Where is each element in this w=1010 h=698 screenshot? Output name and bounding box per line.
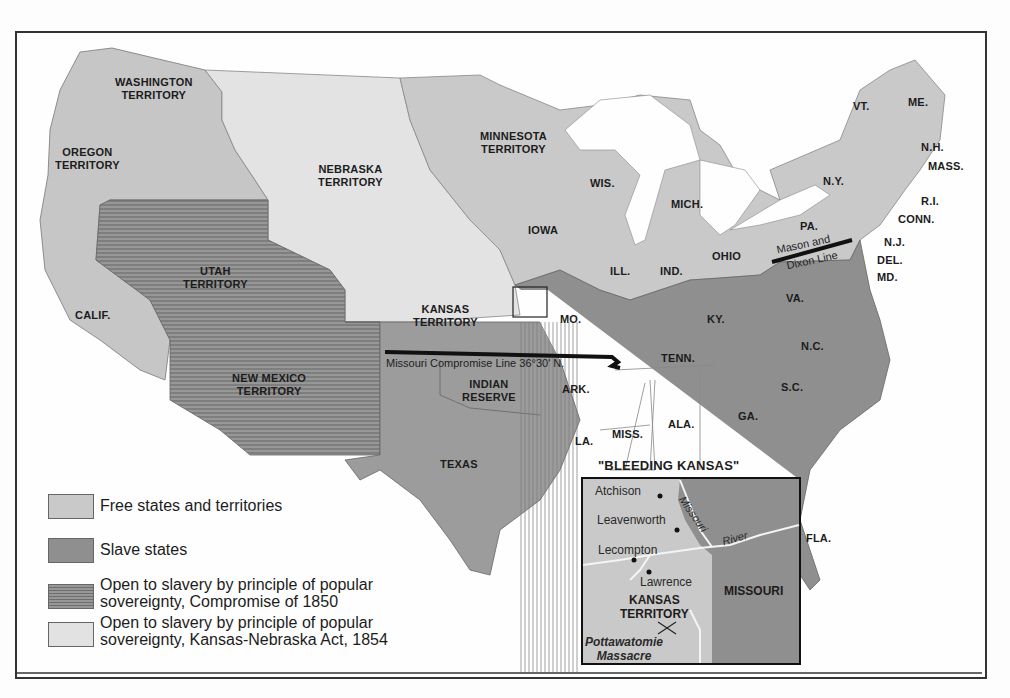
label-oregon-territory: OREGON TERRITORY — [55, 146, 120, 172]
label-nc: N.C. — [801, 340, 824, 353]
label-calif: CALIF. — [75, 309, 110, 322]
legend-swatch-free — [48, 494, 94, 519]
callout-hatch — [520, 322, 580, 672]
lecompton-dot — [632, 558, 637, 563]
label-ky: KY. — [707, 313, 725, 326]
label-la: LA. — [575, 435, 593, 448]
label-minnesota-territory: MINNESOTA TERRITORY — [480, 130, 547, 156]
inset-lecompton: Lecompton — [598, 543, 657, 557]
atchison-dot — [658, 494, 663, 499]
label-texas: TEXAS — [440, 458, 478, 471]
legend-label-slave: Slave states — [100, 538, 187, 558]
label-kansas-territory: KANSAS TERRITORY — [413, 303, 478, 329]
label-ind: IND. — [660, 265, 683, 278]
inset-missouri: MISSOURI — [724, 584, 783, 598]
label-wis: WIS. — [590, 177, 615, 190]
label-ark: ARK. — [562, 383, 590, 396]
label-ala: ALA. — [668, 418, 694, 431]
label-va: VA. — [786, 292, 804, 305]
label-ny: N.Y. — [823, 175, 844, 188]
legend-label-free: Free states and territories — [100, 494, 282, 514]
legend-item-kansas-nebraska: Open to slavery by principle of popular … — [48, 614, 388, 648]
label-conn: CONN. — [898, 213, 934, 226]
legend-label-compromise-1850: Open to slavery by principle of popular … — [100, 576, 373, 610]
inset-kansas-territory: KANSAS TERRITORY — [620, 593, 689, 621]
label-miss: MISS. — [612, 428, 643, 441]
label-ill: ILL. — [610, 265, 630, 278]
inset-leavenworth: Leavenworth — [597, 513, 666, 527]
label-tenn: TENN. — [661, 352, 695, 365]
legend-item-free: Free states and territories — [48, 494, 282, 519]
label-me: ME. — [908, 96, 928, 109]
label-vt: VT. — [853, 100, 870, 113]
label-ga: GA. — [738, 410, 758, 423]
inset-lawrence: Lawrence — [640, 575, 692, 589]
inset-atchison: Atchison — [595, 484, 641, 498]
label-ri: R.I. — [921, 195, 939, 208]
inset-pottawatomie-massacre: Pottawatomie Massacre — [585, 635, 663, 663]
label-md: MD. — [877, 271, 898, 284]
label-new-mexico-territory: NEW MEXICO TERRITORY — [232, 372, 306, 398]
label-del: DEL. — [877, 254, 903, 267]
label-fla: FLA. — [806, 532, 831, 545]
label-sc: S.C. — [781, 381, 803, 394]
label-pa: PA. — [800, 220, 818, 233]
inset-title: "BLEEDING KANSAS" — [598, 459, 739, 472]
label-ohio: OHIO — [712, 250, 741, 263]
label-nh: N.H. — [921, 141, 944, 154]
label-mich: MICH. — [671, 198, 703, 211]
label-mass: MASS. — [928, 160, 964, 173]
legend-swatch-compromise-1850 — [48, 584, 94, 609]
label-indian-reserve: INDIAN RESERVE — [462, 378, 516, 404]
lawrence-dot — [647, 570, 652, 575]
legend-item-compromise-1850: Open to slavery by principle of popular … — [48, 576, 373, 610]
legend-swatch-kansas-nebraska — [48, 622, 94, 647]
leavenworth-dot — [675, 528, 680, 533]
label-iowa: IOWA — [528, 224, 558, 237]
label-utah-territory: UTAH TERRITORY — [183, 265, 248, 291]
label-missouri-compromise-line: Missouri Compromise Line 36°30' N. — [386, 357, 564, 369]
label-mo: MO. — [560, 313, 581, 326]
legend-item-slave: Slave states — [48, 538, 187, 563]
legend-label-kansas-nebraska: Open to slavery by principle of popular … — [100, 614, 388, 648]
label-nebraska-territory: NEBRASKA TERRITORY — [318, 163, 383, 189]
label-washington-territory: WASHINGTON TERRITORY — [115, 76, 193, 102]
legend-swatch-slave — [48, 538, 94, 563]
label-nj: N.J. — [884, 236, 905, 249]
